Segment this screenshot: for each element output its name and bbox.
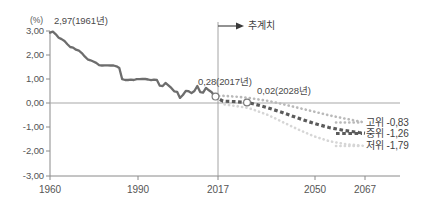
legend-label-high: 고위 -0,83 xyxy=(366,118,409,128)
x-tick-label-2017: 2017 xyxy=(198,185,238,195)
y-tick-label-neg2: -2,00 xyxy=(4,146,44,156)
y-tick-label-1: 1,00 xyxy=(6,74,44,84)
x-tick-label-2050: 2050 xyxy=(295,185,335,195)
y-axis-unit-label: (%) xyxy=(30,16,43,25)
y-tick-label-3: 3,00 xyxy=(6,26,44,36)
y-tick-label-neg1: -1,00 xyxy=(4,122,44,132)
projection-region-label: 추계치 xyxy=(248,21,275,31)
series-middle-line xyxy=(215,96,365,133)
series-actual-line xyxy=(50,32,215,98)
legend-label-middle: 중위 -1,26 xyxy=(366,129,409,139)
marker-2028 xyxy=(244,99,251,106)
series-low-line xyxy=(215,96,365,146)
last-actual-annotation: 0,28(2017년) xyxy=(198,77,252,87)
marker-2017 xyxy=(212,93,219,100)
peak-value-annotation: 2,97(1961년) xyxy=(54,16,108,26)
x-tick-label-1990: 1990 xyxy=(118,185,158,195)
x-tick-label-1960: 1960 xyxy=(30,185,70,195)
x-tick-label-2067: 2067 xyxy=(345,185,385,195)
population-growth-rate-chart: (%) 3,00 2,00 1,00 0,00 -1,00 -2,00 -3,0… xyxy=(0,0,423,211)
projection-arrow-icon xyxy=(218,23,244,30)
x-tick-marks xyxy=(50,176,365,180)
y-tick-label-2: 2,00 xyxy=(6,50,44,60)
crossing-value-annotation: 0,02(2028년) xyxy=(257,86,311,96)
y-tick-label-0: 0,00 xyxy=(6,98,44,108)
y-tick-marks xyxy=(46,31,50,176)
y-tick-label-neg3: -3,00 xyxy=(4,171,44,181)
series-high-line xyxy=(215,96,365,123)
legend-label-low: 저위 -1,79 xyxy=(366,141,409,151)
chart-plot-area xyxy=(0,0,423,211)
